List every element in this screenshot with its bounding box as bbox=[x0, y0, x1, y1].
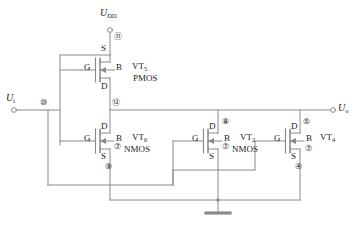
vt4-body-arrow bbox=[290, 138, 296, 144]
vt2-pin-g: G bbox=[192, 134, 199, 143]
vt6-body-arrow bbox=[100, 138, 106, 144]
output-terminal-dot bbox=[331, 108, 336, 113]
vt6-pin-g: G bbox=[84, 134, 91, 143]
vt2-name: VT2 bbox=[240, 133, 255, 143]
vt2-pin-s: S bbox=[209, 152, 214, 161]
vt6-name: VT6 bbox=[132, 133, 147, 143]
vt5-type: PMOS bbox=[133, 74, 158, 83]
vt4-pin-d: D bbox=[291, 122, 298, 131]
vt2-body-node: ⑦ bbox=[222, 143, 229, 151]
vt5-pin-g: G bbox=[84, 63, 91, 72]
node-supply: ⑪ bbox=[114, 33, 122, 41]
vt6-type: NMOS bbox=[124, 145, 150, 154]
circuit-diagram: UDD ⑪ Ui ⑩ Uo ⑫ S G B D VT5 PMOS D G B S… bbox=[0, 0, 356, 235]
vt4-pin-s: S bbox=[291, 152, 296, 161]
supply-terminal-dot bbox=[108, 28, 113, 33]
input-terminal-dot bbox=[12, 108, 17, 113]
vt5-pin-b: B bbox=[116, 63, 122, 72]
vt6-pin-d: D bbox=[101, 122, 108, 131]
vt2-pin-d: D bbox=[209, 122, 216, 131]
vt5-body-arrow bbox=[100, 67, 106, 73]
vt6-body-node: ⑦ bbox=[114, 143, 121, 151]
node-vt4-source: ④ bbox=[295, 163, 302, 171]
input-label: Ui bbox=[6, 93, 15, 104]
vt4-pin-b: B bbox=[306, 134, 312, 143]
node-vt4-drain: ⑤ bbox=[303, 118, 310, 126]
node-vt6-source: ⑨ bbox=[105, 163, 112, 171]
output-label: Uo bbox=[338, 103, 348, 114]
vt6-pin-s: S bbox=[101, 152, 106, 161]
vt2-type: NMOS bbox=[232, 145, 258, 154]
supply-label: UDD bbox=[100, 8, 117, 19]
ground-junction-dot bbox=[216, 198, 220, 202]
node-input: ⑩ bbox=[40, 99, 47, 107]
vt5-pin-d: D bbox=[101, 82, 108, 91]
vt4-name: VT4 bbox=[320, 133, 335, 143]
node-mid: ⑫ bbox=[112, 99, 120, 107]
node-vt2-drain: ⑧ bbox=[222, 118, 229, 126]
vt4-body-node: ⑦ bbox=[305, 145, 312, 153]
vt4-pin-g: G bbox=[274, 134, 281, 143]
vt5-name: VT5 bbox=[132, 62, 147, 72]
vt5-pin-s: S bbox=[101, 44, 106, 53]
vt2-body-arrow bbox=[208, 138, 214, 144]
